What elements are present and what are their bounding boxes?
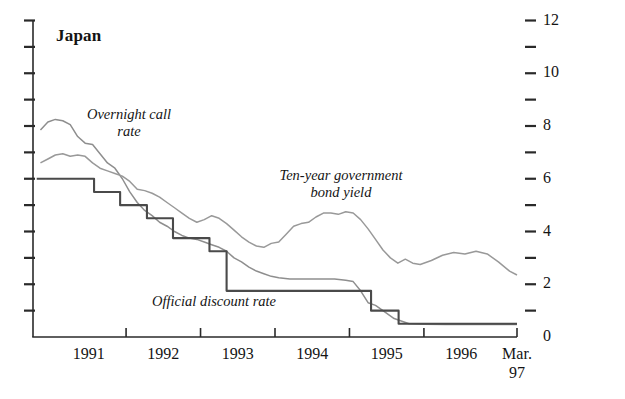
y-axis-label-8: 8 xyxy=(543,116,551,134)
x-axis-label-1991: 1991 xyxy=(53,345,125,364)
page-title: Japan xyxy=(56,26,101,46)
series-label-official-discount-rate: Official discount rate xyxy=(152,293,328,310)
chart-container: Japan Overnight call rate Ten-year gover… xyxy=(0,0,625,399)
series-label-overnight-call-rate: Overnight call rate xyxy=(63,106,195,140)
y-axis-label-0: 0 xyxy=(543,327,551,345)
y-axis-label-6: 6 xyxy=(543,169,551,187)
x-axis-label-1995: 1995 xyxy=(351,345,423,364)
y-axis-label-10: 10 xyxy=(543,63,559,81)
x-axis-label-1994: 1994 xyxy=(276,345,348,364)
y-axis-label-4: 4 xyxy=(543,222,551,240)
x-axis-label-mar--97: Mar. 97 xyxy=(481,345,553,383)
series-label-ten-year-bond-yield: Ten-year government bond yield xyxy=(256,167,426,201)
y-axis-label-2: 2 xyxy=(543,274,551,292)
x-axis-label-1993: 1993 xyxy=(202,345,274,364)
y-axis-label-12: 12 xyxy=(543,11,559,29)
x-axis-label-1992: 1992 xyxy=(127,345,199,364)
